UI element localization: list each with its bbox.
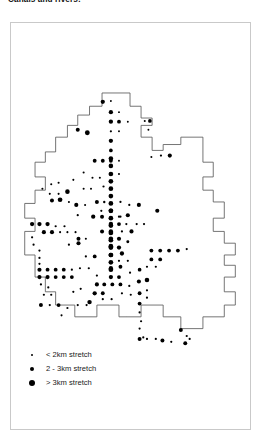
canal-dot xyxy=(146,297,148,299)
canal-dot xyxy=(109,139,113,143)
canal-dot xyxy=(70,275,74,279)
canal-dot xyxy=(102,185,104,187)
canal-dot xyxy=(68,244,70,246)
canal-dot xyxy=(158,249,162,253)
canal-dot xyxy=(40,283,42,285)
canal-dot xyxy=(93,255,97,259)
canal-dot xyxy=(59,231,61,233)
canal-dot xyxy=(189,338,191,340)
canal-dot xyxy=(140,320,142,322)
canal-dot xyxy=(57,303,61,307)
canal-dot xyxy=(149,257,153,261)
canal-dot xyxy=(109,194,114,199)
canal-dot xyxy=(83,171,85,173)
canal-dot xyxy=(142,336,144,338)
canal-dot xyxy=(138,337,142,341)
canal-dot xyxy=(109,186,114,191)
canal-dot xyxy=(76,241,80,245)
canal-dot xyxy=(119,283,123,287)
canal-dot xyxy=(109,172,114,177)
canal-dot xyxy=(137,203,141,207)
canal-dot xyxy=(176,249,180,253)
canal-dot xyxy=(99,177,101,179)
legend-item-small: < 2km stretch xyxy=(24,348,144,362)
canal-dot xyxy=(149,249,153,253)
canal-dot xyxy=(129,272,131,274)
canal-dot xyxy=(50,294,52,296)
canal-dot xyxy=(55,225,57,227)
canal-dot xyxy=(155,266,157,268)
canal-dot xyxy=(95,200,99,204)
canal-dot xyxy=(85,238,87,240)
canal-dot xyxy=(54,275,58,279)
canal-dot xyxy=(72,179,74,181)
canal-dot xyxy=(160,154,162,156)
canal-dot xyxy=(62,275,66,279)
canal-dot xyxy=(43,294,45,296)
canal-dot xyxy=(138,328,140,330)
canal-dot xyxy=(109,275,113,279)
canal-dot xyxy=(68,201,70,203)
canal-dot xyxy=(111,298,113,300)
canal-dot xyxy=(120,251,124,255)
canal-dot xyxy=(38,263,40,265)
canal-dot xyxy=(125,223,127,225)
canal-dot xyxy=(100,215,104,219)
canal-dot xyxy=(109,236,114,241)
canal-dot xyxy=(90,188,92,190)
district-boundary-outline xyxy=(25,93,236,329)
canal-dot xyxy=(109,266,113,270)
canal-dot xyxy=(77,304,79,306)
canal-dot xyxy=(109,149,113,153)
canal-dot xyxy=(109,164,114,169)
canal-dot xyxy=(95,282,99,286)
canal-dot xyxy=(101,100,105,104)
canal-dot xyxy=(160,338,164,342)
canal-dot xyxy=(30,222,34,226)
canal-dot xyxy=(83,188,85,190)
canal-dot xyxy=(138,302,142,306)
canal-dot xyxy=(117,245,121,249)
canal-dot xyxy=(58,182,60,184)
canal-dot xyxy=(121,292,123,294)
canal-dot xyxy=(80,288,82,290)
canal-dot xyxy=(101,159,105,163)
canal-dot xyxy=(137,279,141,283)
canal-dot xyxy=(62,268,66,272)
canal-dot xyxy=(58,193,60,195)
canal-dot xyxy=(117,222,121,226)
canal-dot xyxy=(158,257,162,261)
canal-dot xyxy=(186,335,188,337)
canal-dot xyxy=(91,177,93,179)
canal-dot xyxy=(109,120,113,124)
canal-dot xyxy=(130,294,132,296)
canal-dot xyxy=(85,130,90,135)
canal-dot xyxy=(136,223,138,225)
canal-dot xyxy=(110,283,114,287)
canal-dot xyxy=(45,275,49,279)
canal-dot xyxy=(66,307,68,309)
legend-item-large: > 3km stretch xyxy=(24,376,144,390)
canal-dot xyxy=(102,298,104,300)
canal-dot xyxy=(129,229,133,233)
canal-dot xyxy=(138,291,142,295)
canals-rivers-figure: Canals and rivers: < 2km stretch2 - 3km … xyxy=(0,0,262,444)
canal-dot xyxy=(77,214,79,216)
canal-dot xyxy=(37,268,41,272)
canal-dot xyxy=(54,268,58,272)
canal-dot xyxy=(100,229,104,233)
canal-dot xyxy=(138,311,140,313)
canal-dot xyxy=(49,304,51,306)
canal-dot xyxy=(170,341,172,343)
figure-title-text: Canals and rivers: xyxy=(8,0,81,4)
canal-dot xyxy=(96,274,98,276)
legend-label-large: > 3km stretch xyxy=(46,376,92,390)
canal-dot xyxy=(85,255,87,257)
canal-dot xyxy=(38,257,40,259)
canal-dot xyxy=(119,201,121,203)
canal-dot xyxy=(50,183,52,185)
canal-dot xyxy=(61,314,63,316)
canal-dot xyxy=(118,216,120,218)
canal-dot xyxy=(110,130,112,132)
canal-dot xyxy=(101,291,105,295)
